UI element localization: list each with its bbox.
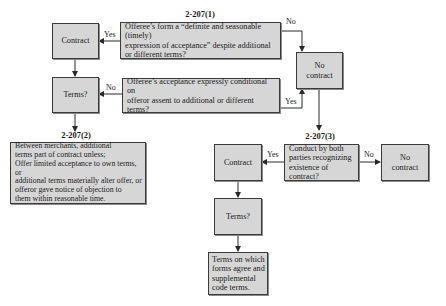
- decision-conduct-text: Conduct by both parties recognizing exis…: [289, 144, 356, 181]
- terms-node-top-label: Terms?: [64, 90, 88, 99]
- edge-label-definite-yes: Yes: [104, 30, 116, 39]
- merchants-rule-text: Between merchants, additional terms part…: [15, 142, 143, 204]
- section-label-2-207-2: 2-207(2): [61, 130, 91, 140]
- no-contract-node-top: No contract: [296, 52, 343, 89]
- decision-conditional-acceptance-text: Offeree’s acceptance expressly condition…: [127, 77, 277, 114]
- terms-node-bottom: Terms?: [214, 198, 262, 235]
- contract-node-bottom: Contract: [214, 144, 262, 181]
- contract-node-top: Contract: [52, 23, 99, 59]
- decision-definite-acceptance: Offeree’s form a “definite and seasonabl…: [120, 22, 281, 59]
- decision-conditional-acceptance: Offeree’s acceptance expressly condition…: [122, 78, 280, 113]
- merchants-rule-node: Between merchants, additional terms part…: [10, 142, 146, 204]
- contract-node-bottom-label: Contract: [224, 158, 252, 167]
- decision-definite-acceptance-text: Offeree’s form a “definite and seasonabl…: [125, 22, 278, 59]
- terms-node-top: Terms?: [52, 77, 99, 113]
- terms-node-bottom-label: Terms?: [226, 212, 250, 221]
- section-label-2-207-3: 2-207(3): [305, 131, 335, 141]
- no-contract-node-top-label: No contract: [306, 61, 332, 79]
- final-terms-text: Terms on which forms agree and supplemen…: [212, 255, 265, 292]
- edge-label-conduct-no: No: [364, 150, 374, 159]
- edge-label-conditional-no: No: [106, 83, 116, 92]
- contract-node-top-label: Contract: [61, 36, 89, 45]
- edge-label-conduct-yes: Yes: [267, 150, 279, 159]
- no-contract-node-bottom: No contract: [381, 144, 429, 181]
- edge-label-conditional-yes: Yes: [285, 97, 297, 106]
- decision-conduct: Conduct by both parties recognizing exis…: [284, 144, 359, 181]
- section-label-2-207-1: 2-207(1): [185, 9, 215, 19]
- final-terms-node: Terms on which forms agree and supplemen…: [208, 252, 268, 295]
- edge-label-definite-no: No: [286, 17, 296, 26]
- no-contract-node-bottom-label: No contract: [392, 153, 418, 171]
